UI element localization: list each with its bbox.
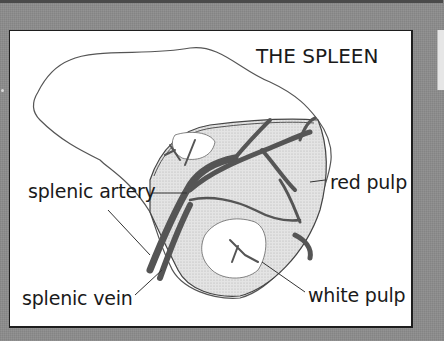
label-splenic-vein: splenic vein — [22, 289, 133, 308]
label-splenic-artery: splenic artery — [28, 182, 156, 201]
diagram-title: THE SPLEEN — [256, 46, 378, 66]
white-pulp-region — [202, 219, 266, 278]
label-red-pulp: red pulp — [330, 173, 407, 192]
label-white-pulp: white pulp — [308, 286, 405, 305]
